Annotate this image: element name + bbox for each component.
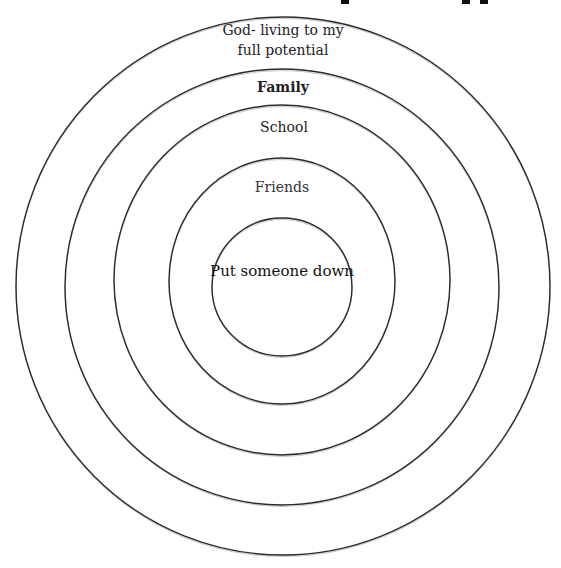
ring-label-friends: Friends bbox=[255, 178, 309, 197]
ring-label-god: God- living to my full potential bbox=[222, 20, 343, 60]
ring-label-god-line1: God- living to my bbox=[222, 20, 343, 40]
ring-label-center: Put someone down bbox=[210, 262, 354, 281]
ring-center bbox=[212, 218, 352, 358]
ring-label-god-line2: full potential bbox=[222, 40, 343, 60]
ring-outer-god bbox=[16, 17, 550, 557]
ring-label-family: Family bbox=[257, 78, 309, 97]
ring-label-school: School bbox=[260, 118, 308, 137]
